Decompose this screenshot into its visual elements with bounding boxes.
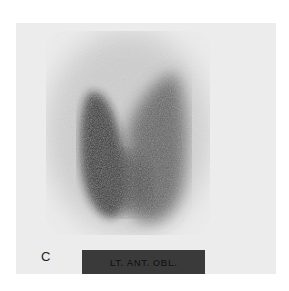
thyroid-isthmus [102,153,150,213]
scan-panel: C LT. ANT. OBL. [16,23,276,274]
thyroid-scintigram-image [16,23,276,274]
view-label-text: LT. ANT. OBL. [110,257,178,268]
panel-letter: C [41,249,50,264]
view-label-box: LT. ANT. OBL. [82,250,205,274]
